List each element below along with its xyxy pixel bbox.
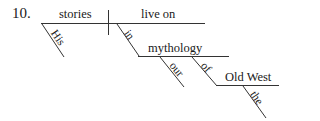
object-old-west: Old West <box>225 71 271 84</box>
predicate-word: live on <box>141 8 175 21</box>
object-mythology: mythology <box>148 42 202 55</box>
subject-word: stories <box>59 8 92 21</box>
